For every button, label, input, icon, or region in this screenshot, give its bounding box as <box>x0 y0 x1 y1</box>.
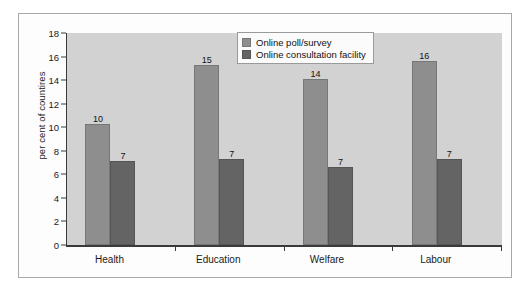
legend-label: Online consultation facility <box>256 49 366 60</box>
y-axis-tick-mark <box>61 80 66 81</box>
legend-swatch-icon <box>242 50 251 59</box>
x-axis-category-label: Education <box>196 254 240 265</box>
x-axis-category-label: Labour <box>420 254 451 265</box>
bar-group-bars: 107 <box>85 33 135 245</box>
bar-value-label: 7 <box>329 157 352 167</box>
y-axis-tick-label: 0 <box>33 240 59 251</box>
bar-value-label: 14 <box>304 69 327 79</box>
bar-value-label: 7 <box>111 151 134 161</box>
y-axis-tick-mark <box>61 245 66 246</box>
bar-group: 107 <box>85 33 135 245</box>
y-axis-tick-label: 12 <box>33 98 59 109</box>
bar[interactable]: 7 <box>219 159 244 245</box>
y-axis-tick-labels: 024681012141618 <box>33 33 59 245</box>
y-axis-tick-label: 2 <box>33 216 59 227</box>
bar[interactable]: 7 <box>328 167 353 245</box>
y-axis-tick-mark <box>61 150 66 151</box>
y-axis-tick-label: 8 <box>33 145 59 156</box>
bar[interactable]: 7 <box>110 161 135 245</box>
bar-value-label: 16 <box>413 51 436 61</box>
y-axis-tick-label: 10 <box>33 122 59 133</box>
legend-item[interactable]: Online poll/survey <box>242 36 366 48</box>
bar-group-bars: 167 <box>412 33 462 245</box>
chart-legend: Online poll/survey Online consultation f… <box>237 32 374 64</box>
y-axis-tick-mark <box>61 33 66 34</box>
y-axis-tick-label: 16 <box>33 51 59 62</box>
y-axis-tick-mark <box>61 56 66 57</box>
bar-group: 157 <box>194 33 244 245</box>
y-axis-tick-label: 4 <box>33 192 59 203</box>
bar-group-bars: 157 <box>194 33 244 245</box>
legend-swatch-icon <box>242 38 251 47</box>
x-axis-tick-mark <box>175 246 176 251</box>
x-axis-category-label: Health <box>95 254 124 265</box>
bar-group-bars: 147 <box>303 33 353 245</box>
x-axis-tick-mark <box>501 246 502 251</box>
bar-value-label: 7 <box>438 149 461 159</box>
y-axis-tick-label: 14 <box>33 75 59 86</box>
bar-value-label: 7 <box>220 149 243 159</box>
y-axis-tick-mark <box>61 103 66 104</box>
bar[interactable]: 16 <box>412 61 437 245</box>
x-axis-tick-mark <box>392 246 393 251</box>
bar-group: 147 <box>303 33 353 245</box>
bar[interactable]: 10 <box>85 124 110 245</box>
y-axis-tick-mark <box>61 127 66 128</box>
y-axis-tick-mark <box>61 174 66 175</box>
legend-item[interactable]: Online consultation facility <box>242 48 366 60</box>
bar-value-label: 10 <box>86 114 109 124</box>
bar[interactable]: 14 <box>303 79 328 245</box>
bar-group: 167 <box>412 33 462 245</box>
bar-value-label: 15 <box>195 55 218 65</box>
x-axis-tick-mark <box>284 246 285 251</box>
x-axis-category-label: Welfare <box>310 254 344 265</box>
chart-figure: per cent of countires 024681012141618 10… <box>18 13 512 278</box>
bar[interactable]: 7 <box>437 159 462 245</box>
plot-area: 107157147167 <box>66 33 502 245</box>
bar[interactable]: 15 <box>194 65 219 245</box>
y-axis-tick-mark <box>61 197 66 198</box>
legend-label: Online poll/survey <box>256 37 332 48</box>
y-axis-tick-mark <box>61 221 66 222</box>
y-axis-tick-label: 18 <box>33 28 59 39</box>
y-axis-tick-label: 6 <box>33 169 59 180</box>
